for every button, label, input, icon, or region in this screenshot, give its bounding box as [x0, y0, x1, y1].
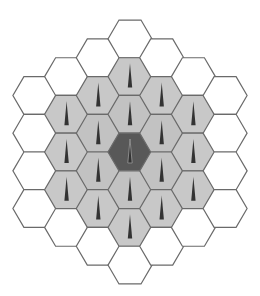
hex-cell-group [13, 20, 247, 284]
hex-cell-diagram [0, 0, 260, 296]
